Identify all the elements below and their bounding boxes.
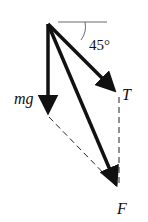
angle-label: 45° [89, 37, 110, 53]
dashed-line-mg-to-F [49, 117, 116, 186]
diagram-svg: 45° T mg F [0, 0, 148, 222]
angle-arc [81, 22, 86, 40]
vector-T [48, 24, 114, 90]
force-diagram: 45° T mg F [0, 0, 148, 222]
label-T: T [122, 86, 132, 103]
label-F: F [116, 200, 127, 217]
label-mg: mg [14, 90, 34, 108]
